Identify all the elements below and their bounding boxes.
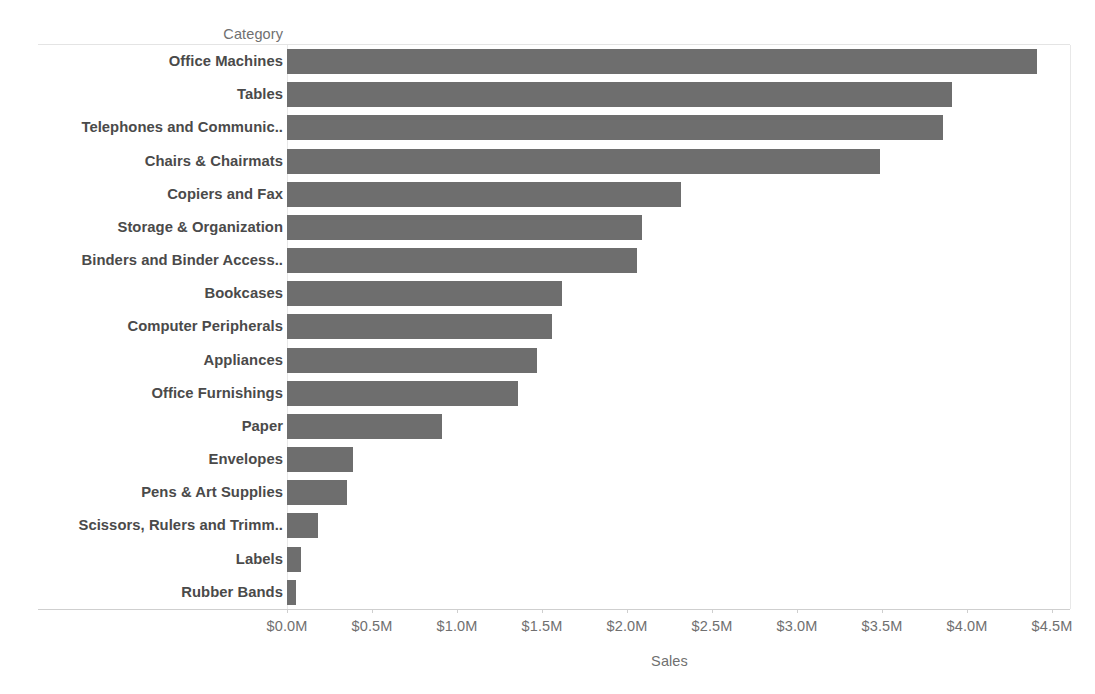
bar-mark[interactable] [287,215,642,240]
bar-track [287,111,1070,144]
category-label[interactable]: Office Machines [169,45,283,78]
category-label[interactable]: Computer Peripherals [127,310,283,343]
category-label[interactable]: Binders and Binder Access.. [82,244,283,277]
bar-mark[interactable] [287,281,562,306]
x-axis-tick [797,609,798,613]
bar-chart-visualization: Category Office MachinesTablesTelephones… [0,0,1095,694]
bar-mark[interactable] [287,414,442,439]
bar-row[interactable]: Envelopes [0,443,1095,476]
x-axis-tick [542,609,543,613]
x-axis-tick [882,609,883,613]
category-label[interactable]: Tables [237,78,283,111]
bar-row[interactable]: Office Machines [0,45,1095,78]
bar-track [287,410,1070,443]
bar-mark[interactable] [287,381,518,406]
bar-row[interactable]: Copiers and Fax [0,178,1095,211]
category-label[interactable]: Telephones and Communic.. [81,111,283,144]
bar-track [287,211,1070,244]
x-axis-tick-label: $3.0M [777,618,818,634]
category-label[interactable]: Appliances [204,344,283,377]
category-label[interactable]: Storage & Organization [117,211,283,244]
x-axis-tick-label: $2.0M [607,618,648,634]
bar-mark[interactable] [287,82,952,107]
bar-track [287,543,1070,576]
x-axis-tick [287,609,288,613]
bar-row[interactable]: Labels [0,543,1095,576]
x-axis-tick [967,609,968,613]
bar-mark[interactable] [287,580,296,605]
x-axis-tick [372,609,373,613]
x-axis-tick-label: $2.5M [692,618,733,634]
x-axis-tick [712,609,713,613]
x-axis-tick [627,609,628,613]
x-axis-tick-label: $1.0M [437,618,478,634]
bar-track [287,78,1070,111]
bar-track [287,443,1070,476]
bar-track [287,244,1070,277]
category-label[interactable]: Paper [242,410,283,443]
bar-track [287,178,1070,211]
bar-mark[interactable] [287,49,1037,74]
x-axis-tick-label: $4.0M [947,618,988,634]
bar-row[interactable]: Scissors, Rulers and Trimm.. [0,509,1095,542]
bar-track [287,344,1070,377]
bar-mark[interactable] [287,447,353,472]
x-axis-tick-label: $1.5M [522,618,563,634]
category-label[interactable]: Envelopes [209,443,283,476]
bar-row[interactable]: Binders and Binder Access.. [0,244,1095,277]
bar-track [287,277,1070,310]
category-label[interactable]: Chairs & Chairmats [145,145,283,178]
bar-row[interactable]: Appliances [0,344,1095,377]
x-axis-tick-label: $3.5M [862,618,903,634]
bar-track [287,145,1070,178]
bar-mark[interactable] [287,115,943,140]
bar-track [287,509,1070,542]
bar-mark[interactable] [287,182,681,207]
category-label[interactable]: Pens & Art Supplies [141,476,283,509]
bar-track [287,377,1070,410]
bar-mark[interactable] [287,314,552,339]
x-axis-tick-label: $0.0M [267,618,308,634]
bar-mark[interactable] [287,547,301,572]
bar-row[interactable]: Rubber Bands [0,576,1095,609]
bar-row[interactable]: Chairs & Chairmats [0,145,1095,178]
bar-track [287,310,1070,343]
x-axis-tick-label: $4.5M [1032,618,1073,634]
bar-row[interactable]: Telephones and Communic.. [0,111,1095,144]
bar-row[interactable]: Bookcases [0,277,1095,310]
category-label[interactable]: Labels [236,543,283,576]
category-label[interactable]: Office Furnishings [151,377,283,410]
bar-mark[interactable] [287,348,537,373]
bar-track [287,45,1070,78]
bar-mark[interactable] [287,248,637,273]
x-axis-tick-label: $0.5M [352,618,393,634]
bar-track [287,576,1070,609]
bar-mark[interactable] [287,513,318,538]
bar-rows-container: Office MachinesTablesTelephones and Comm… [0,45,1095,609]
bar-row[interactable]: Office Furnishings [0,377,1095,410]
bar-row[interactable]: Tables [0,78,1095,111]
category-label[interactable]: Bookcases [204,277,283,310]
category-label[interactable]: Rubber Bands [181,576,283,609]
bar-row[interactable]: Paper [0,410,1095,443]
bar-row[interactable]: Pens & Art Supplies [0,476,1095,509]
category-label[interactable]: Scissors, Rulers and Trimm.. [78,509,283,542]
bar-row[interactable]: Computer Peripherals [0,310,1095,343]
bar-mark[interactable] [287,480,347,505]
category-label[interactable]: Copiers and Fax [167,178,283,211]
x-axis: $0.0M$0.5M$1.0M$1.5M$2.0M$2.5M$3.0M$3.5M… [0,609,1095,649]
bar-track [287,476,1070,509]
bar-row[interactable]: Storage & Organization [0,211,1095,244]
x-axis-tick [1052,609,1053,613]
x-axis-tick [457,609,458,613]
bar-mark[interactable] [287,149,880,174]
sales-axis-title: Sales [287,653,1052,669]
category-axis-title: Category [0,26,283,43]
